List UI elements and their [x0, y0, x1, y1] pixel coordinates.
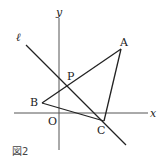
figure-caption: 図2 — [12, 146, 28, 157]
coordinate-diagram: y x O ℓ A B C P 図2 — [0, 0, 165, 163]
point-c-label: C — [97, 124, 105, 137]
point-b-label: B — [30, 96, 38, 109]
line-l-label: ℓ — [16, 31, 21, 44]
point-a-label: A — [119, 36, 129, 49]
x-axis-label: x — [150, 107, 157, 120]
segment-ca — [104, 49, 121, 121]
segment-ab — [42, 49, 121, 103]
point-p-label: P — [67, 70, 75, 83]
origin-label: O — [48, 115, 57, 128]
y-axis-label: y — [55, 6, 63, 19]
line-l — [26, 45, 126, 145]
